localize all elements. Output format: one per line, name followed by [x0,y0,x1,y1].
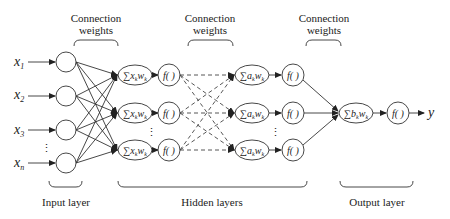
svg-text:weights: weights [307,24,341,36]
hidden1-sum-node-3: ∑xkwk [118,140,152,160]
connection-weights-label-3: Connection weights [299,12,350,46]
svg-text:Connection: Connection [299,12,350,24]
svg-text:weights: weights [79,24,113,36]
hidden2-activation-node-3: f( ) [282,139,304,161]
output-sum-node: ∑bkwk [339,103,373,123]
hidden1-ellipsis: ⋮ [146,126,157,138]
svg-text:f( ): f( ) [392,108,405,120]
hidden2-sum-node-2: ∑akwk [235,103,269,123]
svg-text:Input layer: Input layer [42,196,90,208]
hidden2-activation-node-1: f( ) [282,64,304,86]
input-node-1 [56,52,76,72]
neural-network-diagram: Connection weights Connection weights Co… [0,0,450,219]
brace-top-1 [74,40,118,46]
brace-top-2 [188,40,233,46]
svg-text:x1: x1 [13,54,24,71]
brace-top-3 [306,40,341,46]
input-x3: x3 [13,122,55,139]
hidden2-ellipsis: ⋮ [270,126,281,138]
svg-text:x2: x2 [13,87,24,104]
hidden1-activation-node-1: f( ) [158,64,180,86]
hidden-layers-label: Hidden layers [118,181,307,208]
hidden2-activation-node-2: f( ) [282,102,304,124]
svg-text:Connection: Connection [185,12,236,24]
svg-text:xn: xn [13,155,24,172]
hidden1-sum-node-1: ∑xkwk [118,65,152,85]
input-x2: x2 [13,87,55,104]
svg-text:f( ): f( ) [163,145,176,157]
hidden2-sum-node-3: ∑akwk [235,140,269,160]
svg-text:Hidden layers: Hidden layers [181,196,242,208]
input-node-n [56,153,76,173]
svg-text:x3: x3 [13,122,24,139]
svg-text:Output layer: Output layer [349,196,405,208]
svg-text:Connection: Connection [71,12,122,24]
input-layer-label: Input layer [42,181,90,208]
hidden-to-hidden-connections [180,75,234,150]
svg-text:f( ): f( ) [287,108,300,120]
output-y: y [426,105,435,120]
svg-text:f( ): f( ) [163,70,176,82]
svg-text:f( ): f( ) [287,145,300,157]
connection-weights-label-1: Connection weights [71,12,122,46]
connection-weights-label-2: Connection weights [185,12,236,46]
output-layer-label: Output layer [340,181,413,208]
input-ellipsis: ⋮ [41,142,52,154]
input-to-hidden-connections [76,62,117,163]
hidden1-activation-node-3: f( ) [158,139,180,161]
output-activation-node: f( ) [387,102,409,124]
hidden-to-output-connections [303,80,338,145]
input-xn: xn [13,155,55,172]
svg-text:weights: weights [193,24,227,36]
hidden2-sum-node-1: ∑akwk [235,65,269,85]
input-node-2 [56,86,76,106]
svg-text:f( ): f( ) [287,70,300,82]
input-node-3 [56,120,76,140]
input-x1: x1 [13,54,55,71]
hidden1-activation-node-2: f( ) [158,102,180,124]
hidden1-sum-node-2: ∑xkwk [118,103,152,123]
svg-text:f( ): f( ) [163,108,176,120]
